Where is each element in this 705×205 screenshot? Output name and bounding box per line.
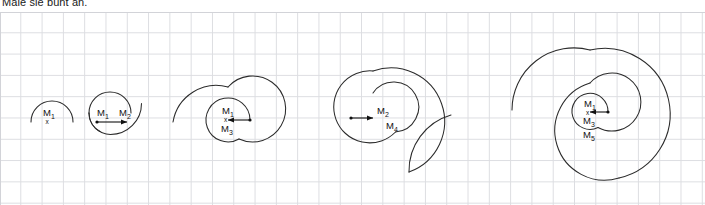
figure-5-arc-4 <box>590 48 670 178</box>
figure-5-arc-2 <box>590 73 641 131</box>
spiral-figures-group: M1 x M1 M2 <box>0 12 705 205</box>
figure-5-label-m3: M3 <box>583 115 595 128</box>
figure-5: M1 x M3 M5 <box>0 12 705 205</box>
figure-5-label-m5: M5 <box>583 129 595 142</box>
worksheet-page: Male sie bunt an. M1 x <box>0 0 705 205</box>
instruction-text: Male sie bunt an. <box>2 0 87 8</box>
graph-paper-panel: M1 x M1 M2 <box>0 12 705 205</box>
figure-5-arrow-tail-dot <box>606 110 609 113</box>
figure-5-arc-5 <box>512 48 590 110</box>
